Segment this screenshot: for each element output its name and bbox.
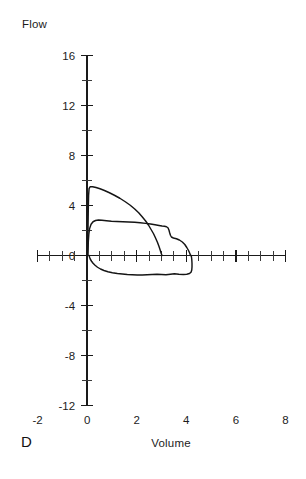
y-tick-label: -12 [58,400,75,412]
x-tick-label: -2 [32,414,42,426]
y-tick-label: 16 [62,50,75,62]
x-tick-label: 2 [133,414,139,426]
loop-traces [88,187,192,275]
y-tick-label: 8 [69,150,75,162]
x-tick-label: 0 [84,414,90,426]
trace-inspiratory-limb [89,256,192,276]
flow-volume-plot: -12-8-40481216 -202468 [0,0,306,479]
y-tick-label: 4 [69,200,76,212]
x-axis-title: Volume [0,437,306,449]
trace-expiratory-loop-inner [88,220,191,256]
y-tick-label: -4 [65,300,76,312]
flow-volume-loop-figure: Flow -12-8-40481216 -202468 Volume D [0,0,306,479]
x-tick-label: 8 [282,414,288,426]
y-tick-label: -8 [65,350,75,362]
y-tick-label: 12 [62,100,75,112]
x-tick-label: 4 [183,414,190,426]
x-tick-label: 6 [233,414,239,426]
panel-letter: D [21,433,32,450]
